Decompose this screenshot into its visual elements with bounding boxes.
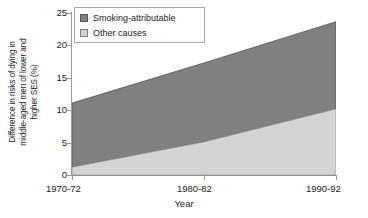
chart-legend: Smoking-attributable Other causes [74,7,205,43]
chart-figure: Difference in risks of dying in middle-a… [0,0,368,218]
y-axis-tick-labels: 0 5 10 15 20 25 [46,0,67,183]
y-tick-label-25: 25 [46,8,67,18]
y-axis-title: Difference in risks of dying in middle-a… [0,0,46,183]
x-axis-tick-labels: 1970-72 1980-82 1990-92 [0,183,368,197]
legend-item-smoking-attributable: Smoking-attributable [80,11,200,25]
x-tick-mark-1990-92 [336,175,337,180]
y-tick-label-15: 15 [46,73,67,83]
y-tick-label-5: 5 [46,138,67,148]
x-tick-mark-1970-72 [72,175,73,180]
dark-gray-swatch-icon [80,14,88,22]
x-tick-mark-1980-82 [204,175,205,180]
y-tick-label-10: 10 [46,105,67,115]
y-tick-label-20: 20 [46,40,67,50]
x-tick-label-1990-92: 1990-92 [306,183,341,195]
light-gray-swatch-icon [80,29,88,37]
y-axis-title-line-1: Difference in risks of dying in [7,38,18,145]
y-tick-label-0: 0 [46,170,67,180]
x-axis-title: Year [0,198,368,209]
x-tick-label-1980-82: 1980-82 [177,183,212,195]
y-axis-title-line-2: middle-aged men of lower and [18,38,29,145]
legend-item-other-causes: Other causes [80,26,200,40]
legend-label-smoking-attributable: Smoking-attributable [93,13,176,23]
y-axis-title-line-3: higher SES (%) [29,38,40,145]
legend-label-other-causes: Other causes [93,28,147,38]
x-tick-label-1970-72: 1970-72 [46,183,81,195]
